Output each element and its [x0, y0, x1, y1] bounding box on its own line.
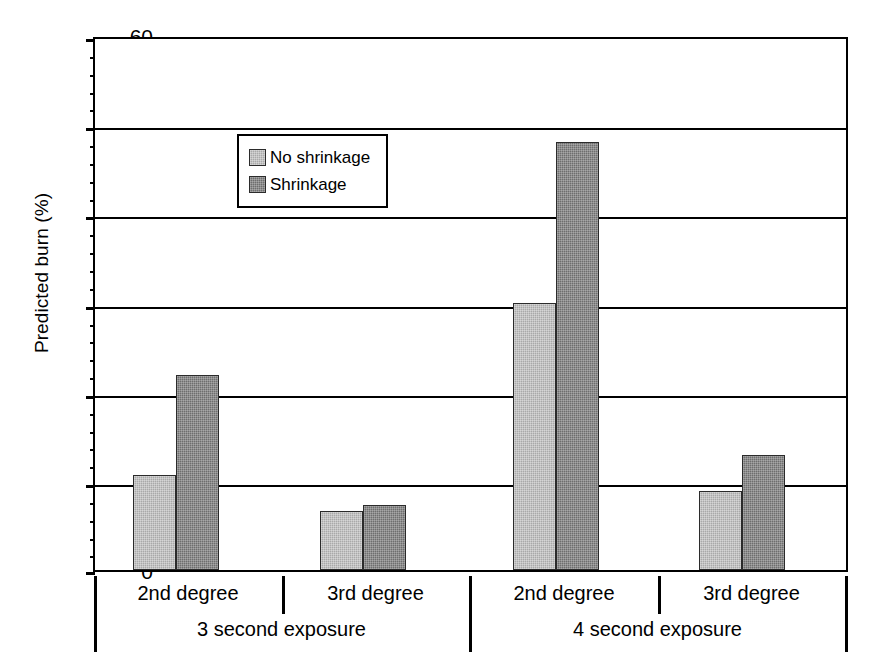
x-label-3sec-3rd-degree: 3rd degree: [282, 582, 469, 605]
y-minor-tick-4: [90, 539, 95, 541]
y-minor-tick-6: [90, 521, 95, 523]
y-minor-tick-38: [90, 235, 95, 237]
bar-4sec-3rd-no-shrinkage: [699, 491, 742, 570]
bar-4sec-3rd-shrinkage: [742, 455, 785, 570]
y-major-tick-10: [86, 485, 95, 488]
legend-label-no-shrinkage: No shrinkage: [270, 148, 370, 168]
y-minor-tick-36: [90, 253, 95, 255]
x-axis-labels: 2nd degree 3rd degree 2nd degree 3rd deg…: [93, 572, 848, 654]
y-minor-tick-52: [90, 110, 95, 112]
y-minor-tick-46: [90, 164, 95, 166]
x-label-3sec-2nd-degree: 2nd degree: [94, 582, 282, 605]
y-minor-tick-18: [90, 414, 95, 416]
bar-4sec-2nd-shrinkage: [556, 142, 599, 570]
plot-inner: No shrinkage Shrinkage: [95, 39, 846, 570]
x-label-4sec-3rd-degree: 3rd degree: [658, 582, 845, 605]
y-minor-tick-28: [90, 325, 95, 327]
bar-3sec-2nd-no-shrinkage: [133, 475, 176, 570]
bar-chart-figure: Predicted burn (%) 60 50 40 30 20 10 0: [0, 0, 874, 671]
y-major-tick-60: [86, 39, 95, 42]
y-minor-tick-8: [90, 503, 95, 505]
bar-4sec-2nd-no-shrinkage: [513, 303, 556, 570]
x-axis-row-degree: 2nd degree 3rd degree 2nd degree 3rd deg…: [93, 578, 848, 614]
x-group-label-4-second-exposure: 4 second exposure: [470, 618, 845, 641]
y-minor-tick-22: [90, 378, 95, 380]
y-major-tick-20: [86, 396, 95, 399]
y-minor-tick-48: [90, 146, 95, 148]
gridline-40: [95, 217, 846, 219]
gridline-50: [95, 128, 846, 130]
legend-swatch-no-shrinkage: [249, 149, 266, 166]
y-minor-tick-16: [90, 432, 95, 434]
gridline-30: [95, 307, 846, 309]
y-major-tick-30: [86, 307, 95, 310]
y-major-tick-50: [86, 128, 95, 131]
y-minor-tick-14: [90, 449, 95, 451]
x-label-4sec-2nd-degree: 2nd degree: [470, 582, 658, 605]
y-minor-tick-34: [90, 271, 95, 273]
legend-swatch-shrinkage: [249, 176, 266, 193]
x-axis-row-exposure: 3 second exposure 4 second exposure: [93, 614, 848, 650]
legend: No shrinkage Shrinkage: [237, 134, 388, 208]
y-minor-tick-26: [90, 342, 95, 344]
y-minor-tick-54: [90, 93, 95, 95]
x-group-label-3-second-exposure: 3 second exposure: [94, 618, 469, 641]
legend-label-shrinkage: Shrinkage: [270, 175, 347, 195]
y-minor-tick-32: [90, 289, 95, 291]
y-major-tick-40: [86, 217, 95, 220]
y-minor-tick-56: [90, 75, 95, 77]
y-minor-tick-58: [90, 57, 95, 59]
y-minor-tick-24: [90, 360, 95, 362]
legend-entry-shrinkage: Shrinkage: [249, 171, 370, 198]
y-minor-tick-12: [90, 467, 95, 469]
y-minor-tick-44: [90, 182, 95, 184]
y-minor-tick-42: [90, 200, 95, 202]
bar-3sec-2nd-shrinkage: [176, 375, 219, 570]
y-axis-title: Predicted burn (%): [31, 113, 53, 433]
bar-3sec-3rd-no-shrinkage: [320, 511, 363, 570]
bar-3sec-3rd-shrinkage: [363, 505, 406, 570]
y-minor-tick-2: [90, 556, 95, 558]
plot-area: No shrinkage Shrinkage: [93, 37, 848, 572]
legend-entry-no-shrinkage: No shrinkage: [249, 144, 370, 171]
